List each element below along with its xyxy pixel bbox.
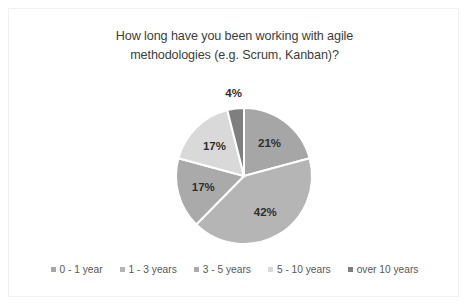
- legend-swatch-icon: [268, 267, 273, 272]
- legend-item[interactable]: 1 - 3 years: [120, 264, 177, 275]
- pie-chart: 21%42%17%17%4%: [164, 87, 324, 257]
- legend-item-label: 1 - 3 years: [129, 264, 177, 275]
- legend-swatch-icon: [348, 267, 353, 272]
- legend-item[interactable]: over 10 years: [348, 264, 419, 275]
- legend-item[interactable]: 3 - 5 years: [194, 264, 251, 275]
- pie-slice-value-label: 17%: [203, 140, 226, 152]
- pie-slices: [176, 108, 312, 244]
- legend-swatch-icon: [51, 267, 56, 272]
- chart-frame: How long have you been working with agil…: [8, 8, 459, 297]
- pie-slice-value-label: 21%: [258, 137, 281, 149]
- pie-slice-value-label: 17%: [192, 181, 215, 193]
- legend-item-label: 3 - 5 years: [203, 264, 251, 275]
- legend-item[interactable]: 0 - 1 year: [51, 264, 103, 275]
- chart-legend: 0 - 1 year1 - 3 years3 - 5 years5 - 10 y…: [9, 264, 460, 275]
- plot-area: 21%42%17%17%4%: [9, 9, 460, 298]
- pie-slice-value-label: 42%: [254, 206, 277, 218]
- legend-swatch-icon: [194, 267, 199, 272]
- legend-item-label: over 10 years: [357, 264, 419, 275]
- legend-item-label: 0 - 1 year: [60, 264, 103, 275]
- legend-item-label: 5 - 10 years: [277, 264, 331, 275]
- legend-item[interactable]: 5 - 10 years: [268, 264, 331, 275]
- pie-slice-value-label: 4%: [225, 87, 242, 99]
- legend-swatch-icon: [120, 267, 125, 272]
